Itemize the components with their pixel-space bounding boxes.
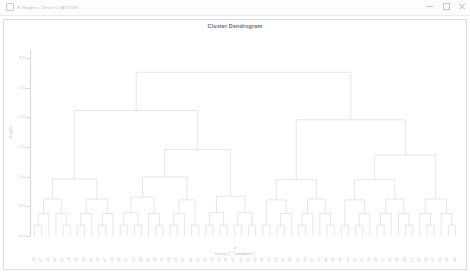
dendrogram-tree xyxy=(31,42,459,236)
y-axis-title: Height xyxy=(8,118,13,148)
graphics-device-canvas[interactable]: Cluster Dendrogram 0.00.51.01.52.02.53.0… xyxy=(3,19,467,270)
leaf-label: s45 xyxy=(90,257,93,262)
leaf-label: s34 xyxy=(396,257,399,262)
x-axis-caption: d hclust (*, "complete") xyxy=(4,245,466,257)
leaf-label: s17 xyxy=(318,257,321,262)
leaf-label: s58 xyxy=(154,257,157,262)
leaf-label: s54 xyxy=(347,257,350,262)
leaf-label: s44 xyxy=(140,257,143,262)
y-axis-tick xyxy=(26,117,30,118)
y-axis-tick-label: 3.0 xyxy=(19,56,25,60)
leaf-label: s40 xyxy=(225,257,228,262)
y-axis-tick-label: 0.5 xyxy=(19,204,25,208)
leaf-label: s57 xyxy=(382,257,385,262)
leaf-label: s07 xyxy=(104,257,107,262)
leaf-label: s27 xyxy=(40,257,43,262)
leaf-label: s46 xyxy=(325,257,328,262)
leaf-label: s36 xyxy=(75,257,78,262)
leaf-label: s48 xyxy=(261,257,264,262)
y-axis-tick xyxy=(26,147,30,148)
dendrogram-svg xyxy=(31,42,459,236)
leaf-label: s22 xyxy=(361,257,364,262)
leaf-label: s23 xyxy=(218,257,221,262)
leaf-label: s33 xyxy=(111,257,114,262)
window-title: R Graphics: Device 2 (ACTIVE) xyxy=(17,5,79,10)
leaf-label: s20 xyxy=(375,257,378,262)
leaf-label: s31 xyxy=(197,257,200,262)
leaf-label: s09 xyxy=(83,257,86,262)
x-axis-label-hclust: hclust (*, "complete") xyxy=(4,251,466,257)
y-axis-tick xyxy=(26,206,30,207)
leaf-label: s13 xyxy=(268,257,271,262)
dendrogram-links xyxy=(35,72,456,236)
leaf-label: s55 xyxy=(439,257,442,262)
window-controls xyxy=(426,2,465,10)
leaf-label: s51 xyxy=(297,257,300,262)
y-axis-tick xyxy=(26,88,30,89)
y-axis-tick xyxy=(26,177,30,178)
leaf-label: s12 xyxy=(125,257,128,262)
leaf-label: s47 xyxy=(182,257,185,262)
leaf-label: s16 xyxy=(175,257,178,262)
leaf-label: s11 xyxy=(354,258,357,262)
leaf-label: s42 xyxy=(282,257,285,262)
r-graphics-window: R Graphics: Device 2 (ACTIVE) Cluster De… xyxy=(0,0,470,274)
leaf-label: s35 xyxy=(254,257,257,262)
leaf-label: s02 xyxy=(247,257,250,262)
leaf-label: s41 xyxy=(47,257,50,262)
leaf-label: s05 xyxy=(190,257,193,262)
leaf-label: s56 xyxy=(240,257,243,262)
leaf-label: s06 xyxy=(289,257,292,262)
leaf-label: s32 xyxy=(432,257,435,262)
leaf-label: s37 xyxy=(311,257,314,262)
leaf-label: s39 xyxy=(368,257,371,262)
leaf-label: s50 xyxy=(118,257,121,262)
y-axis-tick xyxy=(26,236,30,237)
chart-title: Cluster Dendrogram xyxy=(4,23,466,29)
y-axis-tick-label: 2.0 xyxy=(19,115,25,119)
titlebar-left-group: R Graphics: Device 2 (ACTIVE) xyxy=(6,3,79,11)
leaf-label: s10 xyxy=(211,257,214,262)
leaf-label: s28 xyxy=(275,257,278,262)
y-axis-tick-label: 0.0 xyxy=(19,234,25,238)
leaf-label: s14 xyxy=(33,257,36,262)
y-axis-tick-label: 1.5 xyxy=(19,145,25,149)
leaf-label: s04 xyxy=(389,257,392,262)
leaf-label: s38 xyxy=(168,257,171,262)
leaf-label: s24 xyxy=(304,257,307,262)
leaf-label: s03 xyxy=(54,257,57,262)
leaf-label: s60 xyxy=(454,257,457,262)
leaf-label: s08 xyxy=(332,257,335,262)
leaf-label: s52 xyxy=(61,257,64,262)
minimize-button[interactable] xyxy=(426,2,433,10)
leaf-label: s59 xyxy=(446,257,449,262)
plot-area: Cluster Dendrogram 0.00.51.01.52.02.53.0… xyxy=(4,20,466,269)
y-axis-tick xyxy=(26,58,30,59)
leaf-label: s26 xyxy=(418,257,421,262)
leaf-label: s53 xyxy=(204,257,207,262)
y-axis-tick-label: 2.5 xyxy=(19,86,25,90)
close-button[interactable] xyxy=(458,2,465,10)
leaf-label: s15 xyxy=(411,257,414,262)
leaf-label: s30 xyxy=(339,257,342,262)
leaf-label: s43 xyxy=(425,257,428,262)
leaf-label: s49 xyxy=(404,257,407,262)
r-app-icon xyxy=(6,3,14,11)
leaf-label: s25 xyxy=(161,257,164,262)
maximize-button[interactable] xyxy=(442,2,449,10)
leaf-label: s01 xyxy=(147,257,150,262)
y-axis-tick-label: 1.0 xyxy=(19,175,25,179)
leaf-label: s21 xyxy=(97,257,100,262)
leaf-label: s18 xyxy=(68,257,71,262)
leaf-label: s29 xyxy=(133,257,136,262)
leaf-label: s19 xyxy=(232,257,235,262)
window-titlebar: R Graphics: Device 2 (ACTIVE) xyxy=(0,0,470,16)
